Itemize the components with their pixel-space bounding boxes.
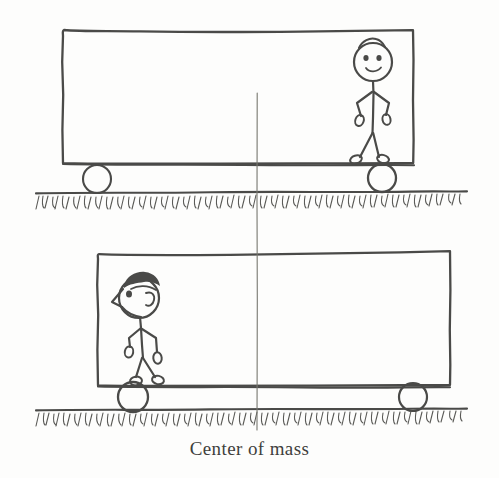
top-ground-hatching	[36, 194, 461, 209]
bottom-figure-nose	[112, 289, 123, 307]
figure-caption: Center of mass	[0, 438, 499, 460]
top-figure-right-arm	[374, 92, 389, 115]
bottom-stick-figure	[112, 272, 165, 386]
bottom-figure-back-leg	[136, 358, 142, 377]
top-panel	[36, 30, 467, 209]
top-figure-left-arm	[357, 92, 372, 116]
bottom-ground-line	[36, 409, 467, 411]
bottom-figure-eye	[126, 291, 132, 298]
bottom-ground-hatching	[36, 411, 462, 426]
top-figure-smile	[366, 68, 381, 72]
top-figure-right-eye	[376, 55, 381, 61]
top-figure-left-hand	[354, 114, 365, 127]
bottom-figure-torso	[140, 317, 143, 358]
top-figure-left-leg	[360, 133, 373, 157]
top-cart-bottom-rail	[63, 164, 414, 165]
top-figure-torso	[373, 81, 374, 133]
bottom-figure-back-arm	[129, 328, 141, 347]
top-cart-rear-wheel	[83, 165, 111, 193]
top-figure-right-leg	[373, 133, 379, 157]
bottom-figure-front-arm	[142, 329, 157, 352]
top-figure-left-eye	[363, 55, 368, 61]
top-cart-body	[62, 30, 413, 164]
bottom-figure-front-foot	[151, 375, 164, 386]
bottom-figure-back-hand	[124, 346, 134, 358]
bottom-cart-body	[97, 251, 450, 386]
figure-canvas	[0, 0, 499, 478]
center-of-mass-figure: Center of mass	[0, 0, 499, 478]
bottom-figure-ear	[146, 292, 154, 305]
bottom-panel	[36, 251, 467, 426]
bottom-cart-bottom-rail	[98, 387, 450, 388]
bottom-figure-hair-strand	[131, 286, 156, 290]
top-stick-figure	[349, 38, 392, 165]
top-cart-front-wheel	[368, 164, 396, 192]
bottom-figure-front-hand	[153, 352, 163, 364]
